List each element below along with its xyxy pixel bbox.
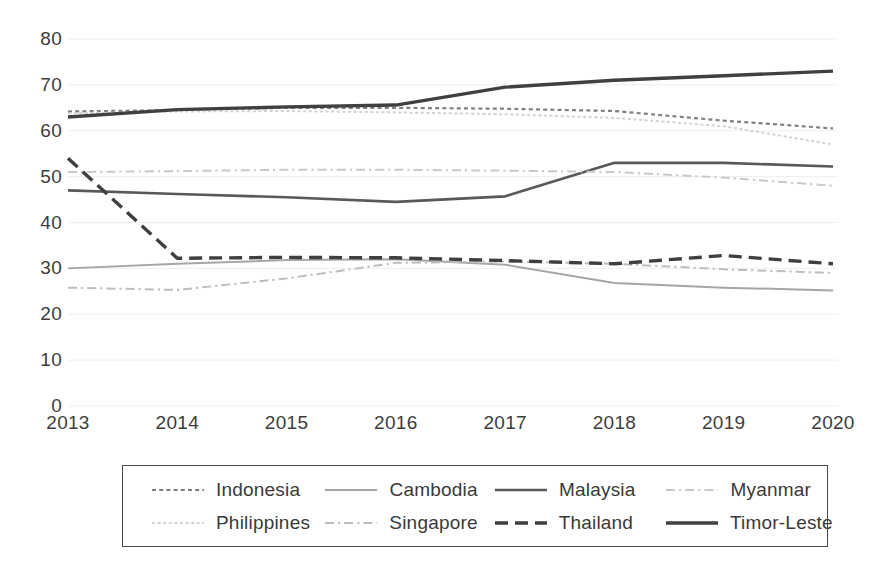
x-tick-label: 2020 — [811, 412, 854, 434]
y-tick-label: 10 — [10, 349, 62, 371]
legend-swatch-icon — [324, 483, 378, 497]
y-tick-label: 30 — [10, 257, 62, 279]
legend-item-malaysia[interactable]: Malaysia — [490, 479, 658, 501]
legend-label: Indonesia — [216, 479, 300, 501]
x-axis: 20132014201520162017201820192020 — [0, 412, 890, 446]
legend-label: Timor-Leste — [730, 512, 833, 534]
x-tick-label: 2019 — [702, 412, 745, 434]
series-line-malaysia — [68, 163, 833, 202]
legend-label: Myanmar — [730, 479, 811, 501]
y-tick-label: 40 — [10, 212, 62, 234]
x-tick-label: 2013 — [46, 412, 89, 434]
legend-item-philippines[interactable]: Philippines — [123, 512, 318, 534]
plot-area — [0, 0, 890, 450]
x-tick-label: 2018 — [593, 412, 636, 434]
chart-legend: IndonesiaCambodiaMalaysiaMyanmarPhilippi… — [122, 465, 828, 547]
series-line-cambodia — [68, 259, 833, 290]
legend-swatch-icon — [665, 516, 719, 530]
legend-item-singapore[interactable]: Singapore — [318, 512, 489, 534]
series-line-timor-leste — [68, 71, 833, 117]
y-tick-label: 20 — [10, 303, 62, 325]
y-tick-label: 60 — [10, 120, 62, 142]
legend-swatch-icon — [151, 516, 205, 530]
legend-label: Philippines — [216, 512, 310, 534]
legend-row: IndonesiaCambodiaMalaysiaMyanmar — [123, 473, 827, 506]
x-tick-label: 2016 — [374, 412, 417, 434]
legend-label: Malaysia — [559, 479, 636, 501]
legend-swatch-icon — [324, 516, 378, 530]
legend-swatch-icon — [151, 483, 205, 497]
y-tick-label: 80 — [10, 28, 62, 50]
legend-item-cambodia[interactable]: Cambodia — [318, 479, 490, 501]
legend-swatch-icon — [494, 483, 548, 497]
x-tick-label: 2017 — [483, 412, 526, 434]
legend-item-myanmar[interactable]: Myanmar — [657, 479, 827, 501]
legend-swatch-icon — [665, 483, 719, 497]
legend-swatch-icon — [494, 516, 548, 530]
y-tick-label: 50 — [10, 166, 62, 188]
x-tick-label: 2014 — [156, 412, 199, 434]
series-line-thailand — [68, 158, 833, 264]
legend-label: Singapore — [389, 512, 477, 534]
legend-item-thailand[interactable]: Thailand — [490, 512, 657, 534]
series-line-philippines — [68, 111, 833, 144]
legend-row: PhilippinesSingaporeThailandTimor-Leste — [123, 506, 827, 539]
legend-item-timor-leste[interactable]: Timor-Leste — [657, 512, 827, 534]
legend-label: Thailand — [559, 512, 633, 534]
y-tick-label: 70 — [10, 74, 62, 96]
x-tick-label: 2015 — [265, 412, 308, 434]
series-line-myanmar — [68, 170, 833, 186]
legend-item-indonesia[interactable]: Indonesia — [123, 479, 318, 501]
legend-label: Cambodia — [389, 479, 477, 501]
plot-svg — [0, 0, 890, 450]
line-chart: 80706050403020100 2013201420152016201720… — [0, 0, 890, 578]
legend-rows: IndonesiaCambodiaMalaysiaMyanmarPhilippi… — [123, 466, 827, 546]
series-line-singapore — [68, 261, 833, 289]
y-axis: 80706050403020100 — [0, 0, 62, 450]
